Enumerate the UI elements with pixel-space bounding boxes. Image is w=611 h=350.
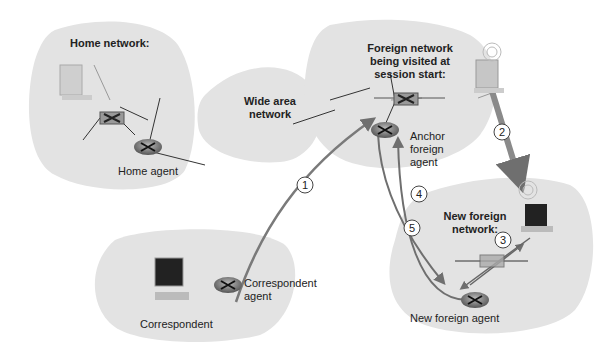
foreign-start-title: Foreign network being visited at session… [360,42,460,81]
diagram: 1 2 3 4 5 Home network: Home agent Wide … [0,0,611,350]
step-5-label: 5 [406,222,418,235]
home-agent-label: Home agent [118,165,178,178]
anchor-agent-label: Anchor foreign agent [410,130,460,169]
home-network-title: Home network: [70,37,149,50]
new-foreign-agent-label: New foreign agent [410,312,499,325]
home-agent-router [134,139,162,155]
wan-title: Wide area network [235,95,305,121]
foreign-laptop [474,60,504,93]
new-foreign-agent-router [461,292,489,308]
home-switch [100,112,124,124]
step-1-label: 1 [299,179,311,192]
correspondent-label: Correspondent [140,318,213,331]
new-foreign-switch [480,255,504,267]
foreign-switch [394,93,418,105]
anchor-agent-router [371,122,399,138]
new-foreign-title: New foreign network: [440,210,510,236]
correspondent-agent-label: Correspondent agent [244,277,324,303]
step-2-label: 2 [496,126,508,139]
correspondent-agent-router [214,277,242,293]
step-4-label: 4 [413,188,425,201]
